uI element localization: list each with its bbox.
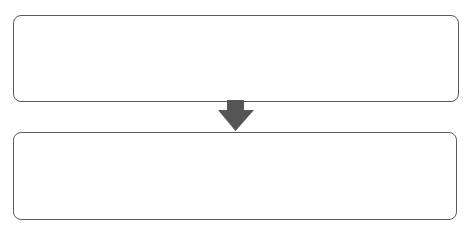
arrow-down-icon — [216, 100, 256, 132]
flow-step-2-box — [13, 132, 457, 220]
flow-step-1-box — [13, 15, 459, 102]
